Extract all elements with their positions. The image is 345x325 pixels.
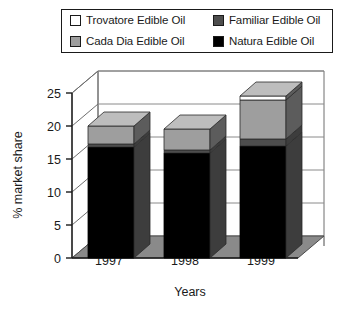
legend-swatch-natura <box>213 36 224 47</box>
y-tick-label-5: 5 <box>54 219 61 233</box>
y-axis-ticks <box>66 93 72 258</box>
x-axis-title: Years <box>174 285 206 299</box>
y-tick-label-25: 25 <box>47 87 61 101</box>
bar-segment-1997-natura <box>88 133 150 258</box>
chart-legend: Trovatore Edible Oil Familiar Edible Oil… <box>61 9 333 53</box>
chart-canvas: 0 5 10 15 20 25 % market share 1997 1998… <box>0 58 345 325</box>
legend-label-trovatore: Trovatore Edible Oil <box>86 14 185 27</box>
y-axis-tick-labels: 0 5 10 15 20 25 <box>47 87 61 266</box>
bar-group-1999 <box>240 82 302 258</box>
legend-swatch-familiar <box>213 15 224 26</box>
bar-segment-1998-natura <box>164 139 226 258</box>
y-axis-title: % market share <box>11 131 25 219</box>
y-tick-label-0: 0 <box>54 252 61 266</box>
bar-chart: 0 5 10 15 20 25 % market share 1997 1998… <box>0 58 345 325</box>
y-tick-label-15: 15 <box>47 153 61 167</box>
legend-label-natura: Natura Edible Oil <box>229 35 314 48</box>
bar-group-1998 <box>164 115 226 258</box>
legend-item-familiar: Familiar Edible Oil <box>211 14 332 27</box>
legend-label-cada-dia: Cada Dia Edible Oil <box>86 35 184 48</box>
bar-group-1997 <box>88 112 150 258</box>
bar-segment-1999-natura <box>240 132 302 258</box>
legend-row: Trovatore Edible Oil Familiar Edible Oil <box>62 10 332 31</box>
legend-item-trovatore: Trovatore Edible Oil <box>62 14 211 27</box>
legend-swatch-trovatore <box>70 15 81 26</box>
legend-item-cada-dia: Cada Dia Edible Oil <box>62 35 211 48</box>
y-tick-label-20: 20 <box>47 120 61 134</box>
legend-swatch-cada-dia <box>70 36 81 47</box>
legend-item-natura: Natura Edible Oil <box>211 35 332 48</box>
legend-row: Cada Dia Edible Oil Natura Edible Oil <box>62 31 332 52</box>
legend-label-familiar: Familiar Edible Oil <box>229 14 320 27</box>
y-tick-label-10: 10 <box>47 186 61 200</box>
